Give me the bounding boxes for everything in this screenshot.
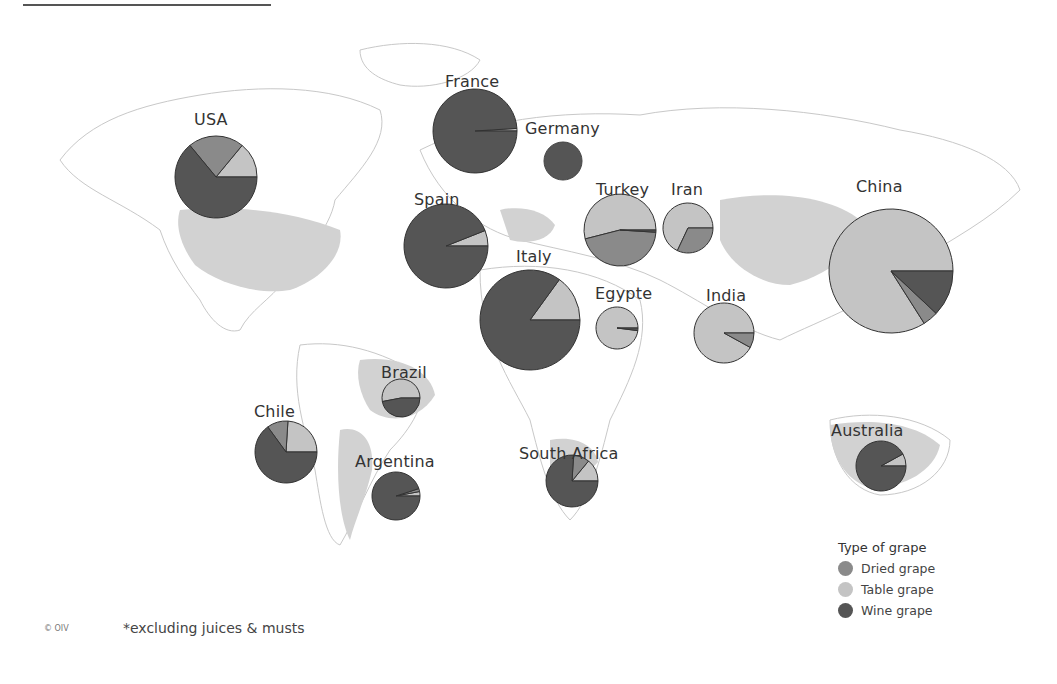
country-label: India [706,286,746,305]
pie-chile [255,421,317,483]
pie-usa [175,136,257,218]
pie-brazil [382,379,420,417]
pie-spain [404,204,488,288]
country-label: USA [194,110,228,129]
pie-argentina [372,472,420,520]
legend-item-wine: Wine grape [838,600,935,621]
country-label: Italy [516,247,552,266]
country-label: Spain [414,190,460,209]
country-label: Chile [254,402,295,421]
country-label: Turkey [596,180,649,199]
pie-france [433,89,517,173]
pie-germany [544,142,582,180]
pie-slice-wine [404,204,488,288]
legend-label: Table grape [861,582,934,597]
country-label: Brazil [381,363,427,382]
pie-india [694,303,754,363]
pie-china [829,209,953,333]
legend-label: Wine grape [861,603,933,618]
legend-item-table: Table grape [838,579,935,600]
country-usa-shape [178,208,341,291]
pie-italy [480,270,580,370]
pie-slice-wine [856,441,906,491]
country-label: France [445,72,499,91]
pie-egypte [596,307,638,349]
legend-title: Type of grape [838,540,935,555]
wine-grape-swatch-icon [838,603,853,618]
pie-slice-wine [433,89,517,173]
legend-item-dried: Dried grape [838,558,935,579]
country-label: Egypte [595,284,652,303]
country-label: Argentina [355,452,435,471]
table-grape-swatch-icon [838,582,853,597]
country-label: Australia [831,421,904,440]
country-label: South Africa [519,444,619,463]
copyright: © OIV [44,624,69,633]
pie-iran [663,203,713,253]
country-argentina-shape [338,429,372,540]
pie-slice-wine [372,472,420,520]
pie-turkey [584,194,656,266]
pie-slice-table [286,421,317,452]
footnote: *excluding juices & musts [123,620,305,636]
country-label: Germany [525,119,600,138]
dried-grape-swatch-icon [838,561,853,576]
legend-label: Dried grape [861,561,935,576]
legend: Type of grape Dried grape Table grape Wi… [838,540,935,621]
country-label: China [856,177,903,196]
pie-australia [856,441,906,491]
country-label: Iran [671,180,703,199]
